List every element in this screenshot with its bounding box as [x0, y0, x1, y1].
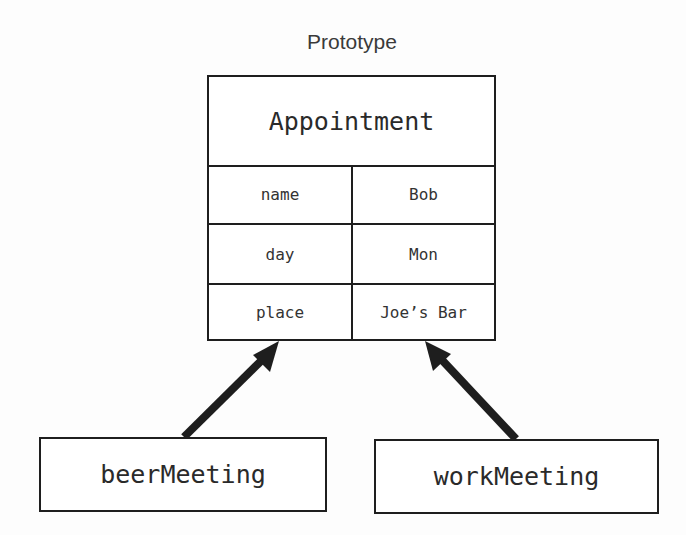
- arrow-work-to-prototype: [425, 341, 516, 439]
- object-work-meeting: workMeeting: [374, 439, 659, 514]
- object-label: beerMeeting: [100, 460, 266, 489]
- object-beer-meeting: beerMeeting: [39, 437, 327, 512]
- arrow-beer-to-prototype: [184, 341, 279, 437]
- object-label: workMeeting: [434, 462, 600, 491]
